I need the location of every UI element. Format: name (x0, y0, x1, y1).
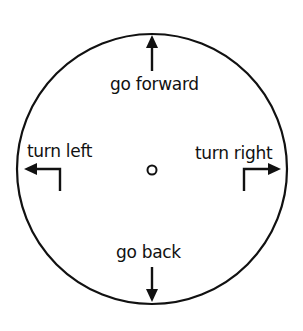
label-go-forward: go forward (110, 76, 199, 93)
label-turn-left: turn left (27, 143, 92, 160)
label-turn-right: turn right (195, 145, 272, 162)
arrow-up-icon (146, 35, 158, 71)
arrow-turn-left-icon (24, 163, 60, 191)
arrow-down-icon (146, 267, 158, 302)
arrow-turn-right-icon (244, 163, 281, 191)
center-marker (148, 166, 157, 175)
direction-dial (0, 0, 303, 331)
label-go-back: go back (116, 244, 181, 261)
